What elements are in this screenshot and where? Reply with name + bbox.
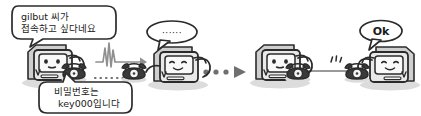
telephone-2 (122, 64, 147, 83)
illustration-scene: gilbut 씨가 접속하고 싶다네요 ······ 비밀번호는 key000입… (0, 0, 421, 116)
dots-bubble-line: ······ (162, 28, 182, 38)
sparkle-mark (331, 56, 342, 62)
illustration-canvas: gilbut 씨가 접속하고 싶다네요 ······ 비밀번호는 key000입… (0, 0, 421, 116)
telephone-4 (345, 64, 370, 83)
computer-character-2 (146, 47, 210, 91)
password-bubble-line-1: 비밀번호는 (54, 86, 99, 97)
speech-bubble-ok: Ok (360, 21, 402, 51)
signal-waveform-arrow (96, 43, 147, 67)
speech-bubble-request: gilbut 씨가 접속하고 싶다네요 (12, 6, 116, 47)
speech-bubble-dots: ······ (147, 21, 197, 50)
password-bubble-line-2: key000입니다 (58, 98, 120, 109)
ok-bubble-line: Ok (373, 25, 390, 38)
request-bubble-line-2: 접속하고 싶다네요 (21, 23, 96, 34)
request-bubble-line-1: gilbut 씨가 (21, 11, 69, 22)
